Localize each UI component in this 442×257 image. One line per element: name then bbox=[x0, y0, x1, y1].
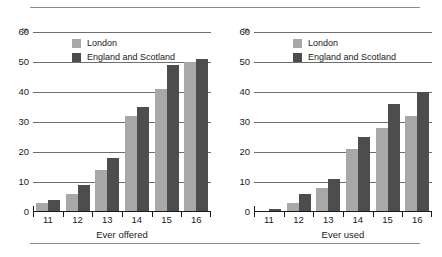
bar bbox=[196, 59, 208, 212]
x-axis-line bbox=[33, 211, 211, 212]
bar bbox=[155, 89, 167, 212]
x-tick-labels-ever-used: 111213141516 bbox=[254, 215, 432, 225]
bar bbox=[328, 179, 340, 212]
bar bbox=[107, 158, 119, 212]
y-tick-label: 50 bbox=[18, 57, 29, 67]
x-tick-label: 15 bbox=[373, 215, 403, 225]
x-tick-label: 14 bbox=[122, 215, 152, 225]
y-tick-label: 0 bbox=[24, 207, 29, 217]
legend-swatch-london-icon bbox=[72, 39, 81, 48]
figure-top-rule bbox=[30, 7, 420, 8]
y-tick-label: 10 bbox=[239, 177, 250, 187]
figure: % 0102030405060 111213141516 Ever offere… bbox=[0, 0, 442, 257]
legend-item-london: London bbox=[72, 38, 175, 49]
y-tick-label: 30 bbox=[18, 117, 29, 127]
bar bbox=[316, 188, 328, 212]
bar-group bbox=[33, 32, 63, 212]
chart-panel-ever-used: % 0102030405060 111213141516 Ever used L… bbox=[227, 14, 438, 242]
x-axis-title-ever-used: Ever used bbox=[254, 230, 432, 240]
y-tick-label: 30 bbox=[239, 117, 250, 127]
legend-item-england-and-scotland: England and Scotland bbox=[293, 52, 396, 63]
x-tick-labels-ever-offered: 111213141516 bbox=[33, 215, 211, 225]
legend-swatch-london-icon bbox=[293, 39, 302, 48]
legend-swatch-england-and-scotland-icon bbox=[293, 53, 302, 62]
bar bbox=[95, 170, 107, 212]
legend-item-england-and-scotland: England and Scotland bbox=[72, 52, 175, 63]
x-axis-title-ever-offered: Ever offered bbox=[33, 230, 211, 240]
bar-group bbox=[402, 32, 432, 212]
bar bbox=[299, 194, 311, 212]
bar bbox=[405, 116, 417, 212]
legend-item-london: London bbox=[293, 38, 396, 49]
bar bbox=[137, 107, 149, 212]
bar bbox=[125, 116, 137, 212]
bar bbox=[66, 194, 78, 212]
bar bbox=[358, 137, 370, 212]
x-tick-label: 11 bbox=[254, 215, 284, 225]
bar bbox=[388, 104, 400, 212]
figure-bottom-rule bbox=[30, 243, 420, 244]
x-tick-label: 13 bbox=[92, 215, 122, 225]
legend-label-london: London bbox=[308, 39, 338, 48]
bar bbox=[346, 149, 358, 212]
x-tick-label: 12 bbox=[284, 215, 314, 225]
y-tick-label: 60 bbox=[18, 27, 29, 37]
x-axis-line bbox=[254, 211, 432, 212]
y-tick-label: 10 bbox=[18, 177, 29, 187]
x-tick-label: 14 bbox=[343, 215, 373, 225]
bar bbox=[417, 92, 429, 212]
x-tick-label: 16 bbox=[402, 215, 432, 225]
y-axis-origin-stub bbox=[254, 206, 255, 212]
y-tick-label: 40 bbox=[18, 87, 29, 97]
x-tick-label: 16 bbox=[181, 215, 211, 225]
y-tick-label: 60 bbox=[239, 27, 250, 37]
legend-label-london: London bbox=[87, 39, 117, 48]
y-tick-label: 40 bbox=[239, 87, 250, 97]
legend-swatch-england-and-scotland-icon bbox=[72, 53, 81, 62]
legend-label-england-and-scotland: England and Scotland bbox=[308, 53, 396, 62]
bar bbox=[184, 62, 196, 212]
legend-ever-used: London England and Scotland bbox=[293, 38, 396, 66]
y-tick-label: 20 bbox=[18, 147, 29, 157]
y-tick-label: 20 bbox=[239, 147, 250, 157]
bar bbox=[167, 65, 179, 212]
bar-group bbox=[254, 32, 284, 212]
legend-label-england-and-scotland: England and Scotland bbox=[87, 53, 175, 62]
chart-panel-ever-offered: % 0102030405060 111213141516 Ever offere… bbox=[6, 14, 217, 242]
x-tick-label: 12 bbox=[63, 215, 93, 225]
bar bbox=[376, 128, 388, 212]
y-tick-label: 0 bbox=[245, 207, 250, 217]
legend-ever-offered: London England and Scotland bbox=[72, 38, 175, 66]
x-tick-label: 13 bbox=[313, 215, 343, 225]
y-axis-origin-stub bbox=[33, 206, 34, 212]
x-tick-label: 11 bbox=[33, 215, 63, 225]
x-tick-label: 15 bbox=[152, 215, 182, 225]
bar-group bbox=[181, 32, 211, 212]
bar bbox=[78, 185, 90, 212]
y-tick-label: 50 bbox=[239, 57, 250, 67]
